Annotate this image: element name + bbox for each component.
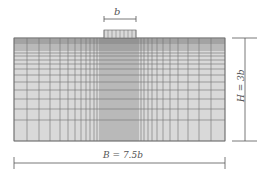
domain-width-label: B = 7.5b [103, 150, 143, 160]
domain-height-label: H = 3b [236, 69, 246, 102]
footing [104, 30, 136, 38]
footing-width-label: b [114, 6, 120, 17]
soil-mesh [14, 38, 225, 141]
